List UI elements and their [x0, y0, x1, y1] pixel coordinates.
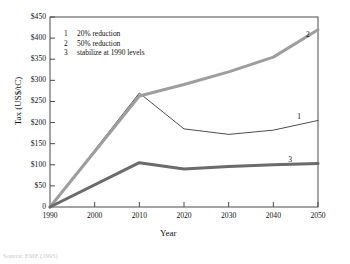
x-tick-label: 1990: [32, 211, 68, 220]
legend-item-label: 50% reduction: [77, 39, 120, 48]
y-tick-label: $50: [14, 181, 46, 190]
y-tick-label: $450: [14, 12, 46, 21]
x-tick-label: 2050: [300, 211, 336, 220]
x-tick-label: 2000: [77, 211, 113, 220]
figure-container: Tax (US$/tC) Year $50$100$150$200$250$30…: [0, 0, 350, 264]
series-end-label-2: 2: [306, 30, 310, 39]
legend-item-number: 1: [64, 29, 72, 38]
y-axis-ticks: [50, 17, 55, 186]
y-tick-label: $300: [14, 75, 46, 84]
x-axis-ticks: [95, 202, 318, 207]
legend-item-number: 2: [64, 39, 72, 48]
x-tick-label: 2010: [121, 211, 157, 220]
y-tick-label: $150: [14, 139, 46, 148]
y-tick-label: $250: [14, 96, 46, 105]
x-tick-label: 2040: [255, 211, 291, 220]
series-end-label-1: 1: [297, 112, 301, 121]
x-axis-title: Year: [160, 228, 177, 238]
y-tick-label: $400: [14, 33, 46, 42]
y-tick-label: $350: [14, 54, 46, 63]
origin-tick-label: 0: [14, 202, 46, 211]
legend-item-label: 20% reduction: [77, 29, 120, 38]
y-tick-label: $100: [14, 160, 46, 169]
series-line-1: [50, 93, 318, 207]
legend-item-number: 3: [64, 48, 72, 57]
figure-caption: Source: EMF (1993): [3, 252, 58, 259]
y-tick-label: $200: [14, 118, 46, 127]
series-end-label-3: 3: [288, 155, 292, 164]
chart-plot-area: [0, 0, 350, 264]
series-line-3: [50, 163, 318, 207]
legend-item-label: stabilize at 1990 levels: [77, 48, 145, 57]
x-tick-label: 2030: [211, 211, 247, 220]
x-tick-label: 2020: [166, 211, 202, 220]
